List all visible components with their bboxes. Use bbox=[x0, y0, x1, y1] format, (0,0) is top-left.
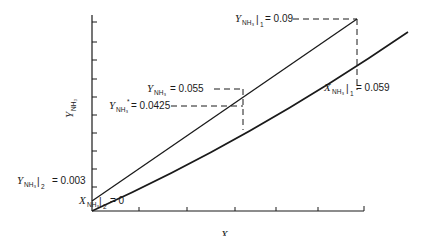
svg-text:2: 2 bbox=[41, 183, 45, 190]
equilibrium-curve bbox=[92, 32, 408, 211]
label-y-nh3-1: Y NH₃ | 1 = 0.09 bbox=[235, 12, 294, 28]
svg-text:= 0.055: = 0.055 bbox=[170, 83, 204, 94]
svg-text:1: 1 bbox=[350, 90, 354, 97]
svg-text:|: | bbox=[37, 176, 40, 187]
svg-text:NH₃: NH₃ bbox=[229, 235, 241, 236]
svg-text:|: | bbox=[346, 83, 349, 94]
svg-text:|: | bbox=[256, 14, 259, 25]
dashed-guides bbox=[171, 19, 357, 130]
label-y-nh3-2: Y NH₃ | 2 = 0.003 bbox=[17, 174, 86, 190]
svg-text:= 0.003: = 0.003 bbox=[52, 175, 86, 186]
x-ticks bbox=[139, 206, 364, 211]
svg-text:NH₃: NH₃ bbox=[242, 19, 254, 26]
svg-text:= 0.09: = 0.09 bbox=[265, 13, 294, 24]
label-x-nh3-1: X NH₃ | 1 = 0.059 bbox=[323, 81, 390, 97]
svg-text:X: X bbox=[78, 194, 87, 206]
svg-text:X: X bbox=[220, 228, 229, 236]
svg-text:= 0.0425: = 0.0425 bbox=[131, 100, 171, 111]
svg-text:NH₃: NH₃ bbox=[70, 99, 77, 111]
svg-text:NH₃: NH₃ bbox=[24, 181, 36, 188]
svg-text:NH₃: NH₃ bbox=[116, 106, 128, 113]
y-axis-title: Y NH₃ bbox=[63, 99, 77, 118]
svg-text:NH₃: NH₃ bbox=[332, 88, 344, 95]
x-axis-title: X NH₃ bbox=[220, 228, 241, 236]
label-y-nh3-star: Y NH₃ * = 0.0425 bbox=[109, 98, 171, 113]
svg-text:1: 1 bbox=[260, 21, 264, 28]
svg-text:*: * bbox=[127, 98, 130, 105]
svg-text:X: X bbox=[323, 81, 332, 93]
svg-text:|: | bbox=[99, 196, 102, 207]
svg-text:= 0.059: = 0.059 bbox=[356, 82, 390, 93]
svg-text:NH₃: NH₃ bbox=[154, 89, 166, 96]
svg-text:= 0: = 0 bbox=[110, 195, 125, 206]
diagram-canvas: Y NH₃ | 1 = 0.09 X NH₃ | 1 = 0.059 Y NH₃… bbox=[0, 0, 426, 236]
svg-text:NH₃: NH₃ bbox=[87, 201, 99, 208]
label-y-nh3-op: Y NH₃ = 0.055 bbox=[147, 82, 204, 96]
y-ticks bbox=[92, 22, 97, 187]
svg-text:2: 2 bbox=[103, 203, 107, 210]
